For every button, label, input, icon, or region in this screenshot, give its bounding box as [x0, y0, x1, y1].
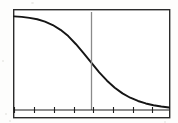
- chart-canvas: [0, 0, 178, 123]
- figure-container: [0, 0, 178, 123]
